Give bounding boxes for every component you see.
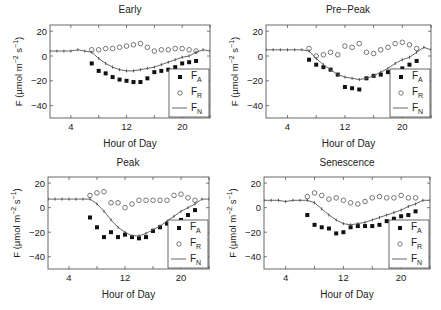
y-tick-label: −40 — [245, 251, 261, 262]
legend: FAFRFN — [389, 220, 429, 268]
x-tick-label: 4 — [66, 272, 71, 283]
chart-panel-senescence: Senescence200−20−4041220Hour of DayF (µm… — [226, 157, 430, 300]
y-tick-label: −40 — [247, 100, 263, 111]
y-axis-label: F (µmol m−2 s−1) — [10, 188, 22, 257]
y-tick-label: 20 — [36, 26, 47, 37]
panel-title: Pre−Peak — [326, 4, 371, 15]
series-fr-point — [123, 205, 128, 210]
series-fa-point — [350, 86, 354, 90]
series-fa-point — [97, 69, 101, 73]
series-fr-point — [166, 48, 171, 53]
series-fr-point — [400, 40, 405, 45]
series-fr-point — [386, 45, 391, 50]
panel-title: Peak — [117, 157, 141, 168]
series-fr-point — [312, 191, 317, 196]
series-fr-point — [137, 198, 142, 203]
y-tick-label: −40 — [29, 251, 45, 262]
series-fr-point — [151, 198, 156, 203]
series-fr-point — [110, 46, 115, 51]
series-fr-point — [414, 46, 419, 51]
series-fr-point — [413, 196, 418, 201]
legend-fr-marker — [177, 242, 181, 246]
series-fa-point — [305, 213, 309, 217]
series-fr-point — [103, 46, 108, 51]
series-fn-line — [50, 50, 210, 71]
series-fr-point — [393, 41, 398, 46]
series-fr-point — [335, 52, 340, 57]
series-fr-point — [364, 50, 369, 55]
series-fr-point — [350, 45, 355, 50]
series-fa-point — [313, 223, 317, 227]
y-tick-label: 0 — [42, 51, 47, 62]
series-fr-point — [406, 196, 411, 201]
series-fr-point — [145, 45, 150, 50]
series-fr-point — [305, 194, 310, 199]
legend-fa-marker — [399, 75, 403, 79]
y-tick-label: −40 — [31, 100, 47, 111]
series-fa-point — [111, 75, 115, 79]
y-tick-label: 20 — [250, 178, 261, 189]
series-fa-point — [341, 230, 345, 234]
series-fr-point — [186, 196, 191, 201]
x-tick-label: 12 — [340, 121, 351, 132]
series-fr-point — [173, 46, 178, 51]
y-tick-label: 0 — [256, 202, 261, 213]
x-axis-label: Hour of Day — [103, 138, 156, 149]
x-tick-label: 4 — [285, 121, 290, 132]
y-axis-label: F (µmol m−2 s−1) — [226, 188, 238, 257]
x-axis-label: Hour of Day — [322, 138, 375, 149]
series-fr-point — [172, 193, 177, 198]
panel-title: Senescence — [319, 157, 374, 168]
series-fa-point — [386, 70, 390, 74]
series-fa-point — [377, 223, 381, 227]
series-fa-point — [102, 235, 106, 239]
series-fr-point — [96, 48, 101, 53]
series-fa-point — [131, 80, 135, 84]
series-fr-point — [179, 192, 184, 197]
series-fr-point — [109, 200, 114, 205]
series-fa-point — [145, 76, 149, 80]
x-axis-label: Hour of Day — [102, 289, 155, 300]
series-fa-point — [152, 70, 156, 74]
series-fa-point — [414, 209, 418, 213]
series-fa-point — [399, 214, 403, 218]
series-fa-point — [116, 235, 120, 239]
series-fr-point — [144, 198, 149, 203]
series-fr-point — [193, 198, 198, 203]
series-fr-point — [124, 44, 129, 49]
legend: FAFRFN — [169, 69, 209, 117]
series-fr-point — [377, 194, 382, 199]
series-fr-point — [158, 198, 163, 203]
x-tick-label: 20 — [176, 272, 187, 283]
series-fa-point — [104, 71, 108, 75]
series-fa-point — [144, 235, 148, 239]
figure: Early200−20−4041220Hour of DayF (µmol m−… — [0, 0, 441, 310]
series-fr-point — [384, 196, 389, 201]
series-fa-point — [109, 230, 113, 234]
series-fr-point — [88, 193, 93, 198]
x-tick-label: 4 — [68, 121, 73, 132]
series-fa-point — [88, 215, 92, 219]
series-fr-point — [327, 197, 332, 202]
series-fr-point — [321, 52, 326, 57]
series-fr-point — [370, 196, 375, 201]
legend: FAFRFN — [168, 220, 208, 268]
series-fa-point — [95, 225, 99, 229]
y-tick-label: 20 — [252, 26, 263, 37]
series-fa-point — [406, 213, 410, 217]
series-fr-point — [159, 48, 164, 53]
y-tick-label: 0 — [40, 202, 45, 213]
series-fr-point — [363, 199, 368, 204]
x-tick-label: 20 — [397, 121, 408, 132]
series-fa-point — [159, 69, 163, 73]
series-fr-point — [180, 46, 185, 51]
legend-fr-marker — [398, 242, 402, 246]
legend-fa-marker — [178, 75, 182, 79]
series-fa-point — [180, 61, 184, 65]
series-fa-point — [125, 79, 129, 83]
legend: FAFRFN — [390, 69, 430, 117]
series-fr-point — [95, 191, 100, 196]
series-fr-point — [356, 202, 361, 207]
series-fr-point — [187, 48, 192, 53]
series-fr-point — [116, 200, 121, 205]
